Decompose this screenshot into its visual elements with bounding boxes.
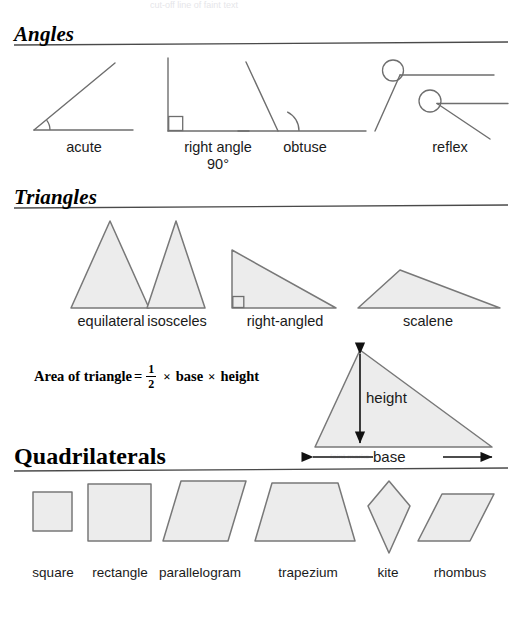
fraction-denominator: 2	[146, 377, 156, 390]
caption-right-angle-degrees: 90°	[153, 156, 283, 173]
diagram-artwork: .ln { stroke:#6e6e6e; stroke-width:1.4; …	[0, 0, 520, 617]
scalene-triangle-shape	[358, 270, 500, 308]
formula-times-2: ×	[204, 369, 219, 385]
formula-times-1: ×	[159, 369, 174, 385]
equilateral-triangle-shape	[71, 221, 149, 308]
isosceles-triangle-shape	[147, 221, 205, 308]
formula-equals: =	[133, 368, 143, 385]
formula-lhs: Area of triangle	[33, 368, 133, 385]
geometry-reference-sheet: cut-off line of faint text faint marks .…	[0, 0, 520, 617]
caption-obtuse: obtuse	[245, 139, 365, 156]
area-of-triangle-formula: Area of triangle = 1 2 × base × height	[33, 363, 260, 390]
caption-isosceles: isosceles	[131, 313, 223, 330]
caption-scalene: scalene	[370, 313, 486, 330]
caption-kite: kite	[362, 565, 414, 581]
parallelogram-shape-art	[163, 481, 246, 541]
formula-term-height: height	[220, 368, 261, 385]
acute-angle-figure	[34, 63, 133, 130]
label-height: height	[366, 389, 436, 407]
label-base: base	[373, 448, 443, 466]
section-heading-quadrilaterals: Quadrilaterals	[14, 443, 166, 470]
caption-parallelogram: parallelogram	[145, 565, 255, 581]
reflex-angle-figure	[375, 60, 508, 139]
kite-shape-art	[368, 481, 410, 553]
caption-reflex: reflex	[395, 139, 505, 156]
section-heading-angles: Angles	[14, 22, 74, 47]
caption-right-angled: right-angled	[227, 313, 343, 330]
caption-rhombus: rhombus	[420, 565, 500, 581]
section-heading-triangles: Triangles	[14, 185, 97, 210]
formula-fraction-one-half: 1 2	[146, 363, 156, 390]
square-shape-art	[33, 492, 72, 531]
right-angle-figure	[168, 58, 249, 131]
rectangle-shape-art	[88, 484, 151, 541]
caption-acute: acute	[24, 139, 144, 156]
right-angled-triangle-shape	[232, 250, 336, 308]
formula-term-base: base	[175, 368, 204, 385]
caption-trapezium: trapezium	[263, 565, 353, 581]
fraction-numerator: 1	[146, 363, 156, 376]
trapezium-shape-art	[255, 483, 355, 541]
rhombus-shape-art	[418, 494, 494, 541]
obtuse-angle-figure	[238, 62, 366, 131]
